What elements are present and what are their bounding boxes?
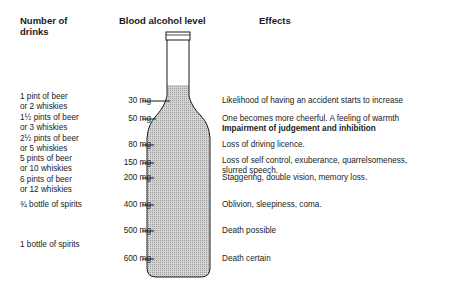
effect-row-8: Death certain bbox=[222, 254, 271, 264]
drinks-text: 6 pints of beer bbox=[20, 175, 72, 185]
level-label: 200 mg bbox=[124, 173, 151, 183]
drinks-text: or 2 whiskies bbox=[20, 102, 68, 112]
bottle-cap bbox=[166, 32, 190, 40]
drinks-text: ¾ bottle of spirits bbox=[20, 200, 82, 210]
effect-text: Oblivion, sleepiness, coma. bbox=[222, 200, 322, 210]
effect-text: Death possible bbox=[222, 226, 276, 236]
effect-text: One becomes more cheerful. A feeling of … bbox=[222, 114, 399, 124]
drinks-text: 2½ pints of beer bbox=[20, 134, 79, 144]
effect-text: Loss of self control, exuberance, quarre… bbox=[222, 156, 407, 166]
drinks-row-2: 1½ pints of beer or 3 whiskies bbox=[20, 113, 79, 132]
effect-row-6: Oblivion, sleepiness, coma. bbox=[222, 200, 322, 210]
drinks-row-4: 5 pints of beer or 10 whiskies bbox=[20, 154, 72, 173]
effect-text: Death certain bbox=[222, 254, 271, 264]
level-label: 80 mg bbox=[128, 140, 151, 150]
level-label: 500 mg bbox=[124, 226, 151, 236]
drinks-row-8: 1 bottle of spirits bbox=[20, 240, 80, 250]
effect-row-1: Likelihood of having an accident starts … bbox=[222, 96, 403, 106]
level-label: 50 mg bbox=[128, 114, 151, 124]
drinks-text: 1 pint of beer bbox=[20, 92, 68, 102]
drinks-row-5: 6 pints of beer or 12 whiskies bbox=[20, 175, 72, 194]
drinks-row-3: 2½ pints of beer or 5 whiskies bbox=[20, 134, 79, 153]
drinks-row-6: ¾ bottle of spirits bbox=[20, 200, 82, 210]
effect-row-3: Loss of driving licence. bbox=[222, 140, 305, 150]
drinks-text: or 10 whiskies bbox=[20, 164, 72, 174]
effect-text: Staggering, double vision, memory loss. bbox=[222, 173, 367, 183]
liquid-fill bbox=[147, 85, 210, 277]
drinks-row-1: 1 pint of beer or 2 whiskies bbox=[20, 92, 68, 111]
drinks-text: or 12 whiskies bbox=[20, 185, 72, 195]
effect-text-bold: Impairment of judgement and inhibition bbox=[222, 124, 376, 133]
effect-text: Loss of driving licence. bbox=[222, 140, 305, 150]
effect-row-5: Staggering, double vision, memory loss. bbox=[222, 173, 367, 183]
level-label: 150 mg bbox=[124, 158, 151, 168]
level-label: 400 mg bbox=[124, 200, 151, 210]
effect-row-2: One becomes more cheerful. A feeling of … bbox=[222, 114, 399, 134]
drinks-text: or 3 whiskies bbox=[20, 123, 79, 133]
drinks-text: 1½ pints of beer bbox=[20, 113, 79, 123]
effect-text: Likelihood of having an accident starts … bbox=[222, 96, 403, 106]
drinks-text: or 5 whiskies bbox=[20, 144, 79, 154]
drinks-text: 1 bottle of spirits bbox=[20, 240, 80, 250]
level-label: 30 mg bbox=[128, 96, 151, 106]
effect-row-7: Death possible bbox=[222, 226, 276, 236]
drinks-text: 5 pints of beer bbox=[20, 154, 72, 164]
level-label: 600 mg bbox=[124, 254, 151, 264]
